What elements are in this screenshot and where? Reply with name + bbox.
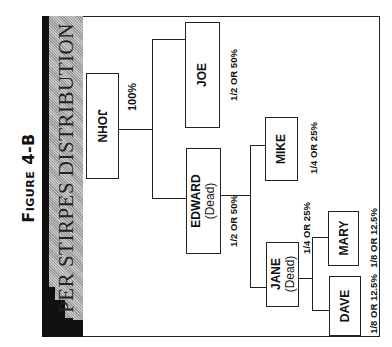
figure-label-number: 4-B: [19, 133, 38, 164]
connector-line: [152, 198, 186, 199]
connector-line: [250, 145, 265, 146]
connector-line: [152, 39, 153, 199]
connector-line: [250, 287, 266, 288]
person-status-edward: (Dead): [203, 174, 217, 227]
person-status-jane: (Dead): [283, 256, 297, 293]
person-name-edward-name: EDWARD: [189, 174, 203, 227]
share-label-dave: 1/8 OR 12.5%: [368, 274, 379, 334]
share-label-mike: 1/4 OR 25%: [308, 122, 319, 174]
person-name-dave: DAVE: [338, 290, 352, 322]
band-step-decoration: [73, 320, 83, 337]
connector-line: [312, 237, 328, 238]
figure-title: PER STIRPES DISTRIBUTION: [54, 23, 79, 313]
person-name-john: JOHN: [95, 109, 109, 142]
connector-line: [250, 145, 251, 288]
share-label-joe: 1/2 OR 50%: [228, 49, 239, 101]
figure-label-prefix: Figure: [19, 171, 38, 223]
person-name-jane: JANE (Dead): [269, 256, 297, 293]
connector-line: [299, 278, 312, 279]
band-step-decoration: [65, 318, 73, 337]
share-label-john: 100%: [126, 83, 138, 111]
connector-line: [312, 310, 329, 311]
figure-label: Figure 4-B: [19, 133, 38, 223]
share-label-jane: 1/4 OR 25%: [301, 202, 312, 254]
person-name-edward: EDWARD (Dead): [189, 174, 217, 227]
person-name-joe: JOE: [195, 63, 209, 87]
person-name-mary: MARY: [337, 221, 351, 256]
title-black-bar: [42, 16, 49, 337]
person-name-jane-name: JANE: [269, 256, 283, 293]
person-name-mike: MIKE: [274, 134, 288, 164]
share-label-mary: 1/8 OR 12.5%: [368, 208, 379, 268]
connector-line: [312, 237, 313, 310]
connector-line: [118, 129, 152, 130]
share-label-edward: 1/2 OR 50%: [228, 195, 239, 247]
connector-line: [152, 39, 185, 40]
